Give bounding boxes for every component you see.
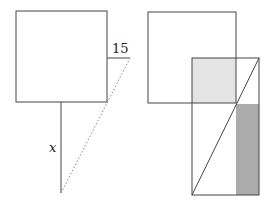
dotted-hypotenuse (61, 58, 130, 193)
right-figure (148, 12, 259, 195)
dark-shaded-region (236, 104, 259, 195)
height-label-x: x (49, 140, 57, 155)
diagram-canvas: 15 x (0, 0, 274, 209)
left-square (16, 11, 107, 102)
left-figure: 15 x (16, 11, 130, 193)
side-label-15: 15 (112, 41, 129, 56)
light-shaded-region (192, 58, 236, 103)
